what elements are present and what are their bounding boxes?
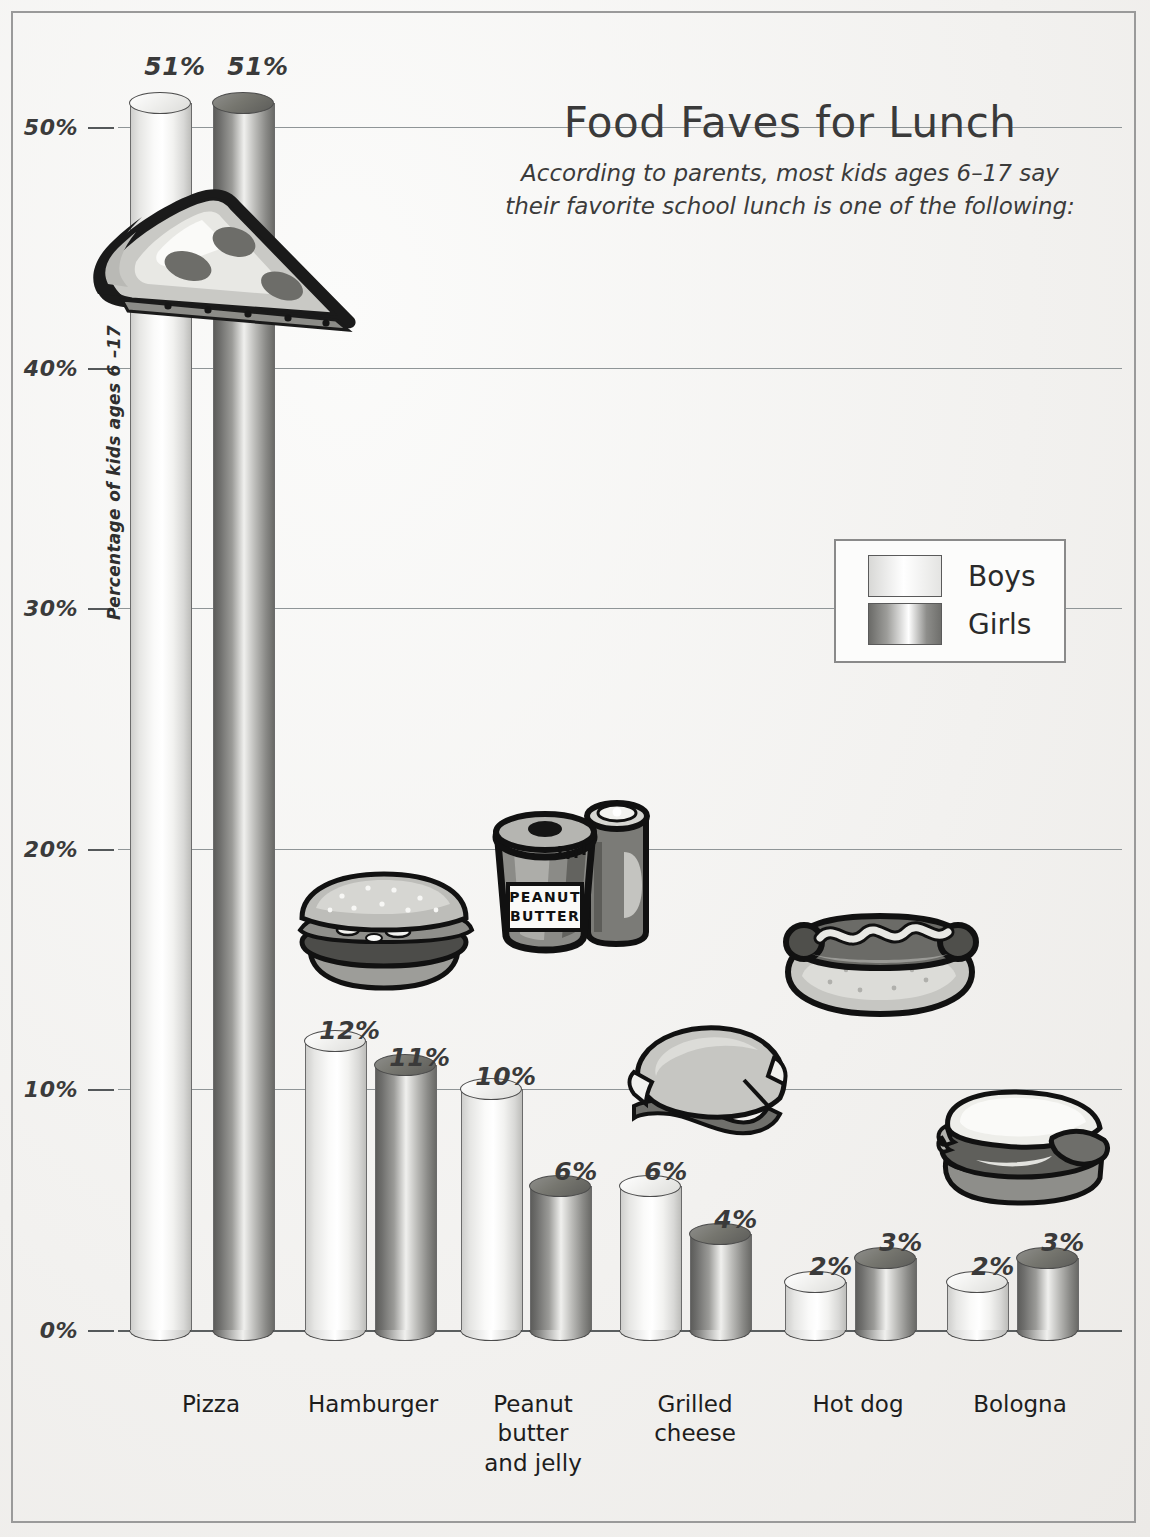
ytick-label-20: 20% [0, 837, 78, 862]
value-label-grilled-cheese-girls: 4% [688, 1205, 784, 1234]
category-label-line: cheese [600, 1419, 790, 1448]
legend-label-girls: Girls [968, 608, 1031, 641]
peanut-butter-jar-illustration: PEANUT BUTTER [484, 782, 664, 954]
chart-subtitle-line1: According to parents, most kids ages 6–1… [470, 157, 1110, 190]
category-label-grilled-cheese: Grilled cheese [600, 1390, 790, 1449]
legend-item-girls[interactable]: Girls [868, 603, 1031, 645]
bar-peanut-butter-and-jelly-girls[interactable] [530, 1186, 592, 1330]
value-label-pizza-girls: 51% [210, 52, 306, 81]
bar-body [620, 1186, 682, 1330]
chart-canvas: 0% 10% 20% 30% 40% 50% Percentage of kid… [0, 0, 1150, 1537]
bar-cap [212, 92, 274, 114]
hamburger-illustration [286, 868, 482, 994]
bologna-sandwich-illustration [928, 1088, 1120, 1212]
bar-hamburger-boys[interactable] [305, 1041, 367, 1330]
value-label-pbj-girls: 6% [528, 1157, 624, 1186]
pizza-slice-illustration [82, 168, 372, 343]
bar-body [305, 1041, 367, 1330]
chart-subtitle: According to parents, most kids ages 6–1… [470, 157, 1110, 222]
value-label-hamburger-girls: 11% [372, 1043, 468, 1072]
value-label-hamburger-boys: 12% [302, 1016, 398, 1045]
legend-swatch-girls [868, 603, 942, 645]
legend-item-boys[interactable]: Boys [868, 555, 1036, 597]
legend-swatch-boys [868, 555, 942, 597]
value-label-hot-dog-girls: 3% [853, 1228, 949, 1257]
category-label-bologna: Bologna [925, 1390, 1115, 1419]
legend: Boys Girls [834, 539, 1066, 663]
bar-hot-dog-boys[interactable] [785, 1282, 847, 1330]
value-label-grilled-cheese-boys: 6% [618, 1157, 714, 1186]
bar-body [375, 1065, 437, 1330]
bar-grilled-cheese-girls[interactable] [690, 1234, 752, 1330]
value-label-pbj-boys: 10% [458, 1062, 554, 1091]
bar-bologna-boys[interactable] [947, 1282, 1009, 1330]
ytick-label-50: 50% [0, 115, 78, 140]
ytick-label-30: 30% [0, 596, 78, 621]
ytick-label-40: 40% [0, 356, 78, 381]
grilled-cheese-illustration [612, 1022, 806, 1138]
chart-subtitle-line2: their favorite school lunch is one of th… [470, 190, 1110, 223]
hot-dog-illustration [778, 898, 982, 1024]
bar-body [530, 1186, 592, 1330]
category-label-line: and jelly [438, 1449, 628, 1478]
chart-title: Food Faves for Lunch [470, 98, 1110, 147]
bar-grilled-cheese-boys[interactable] [620, 1186, 682, 1330]
bar-cap [129, 92, 191, 114]
ytick-mark-10 [88, 1089, 114, 1091]
title-block: Food Faves for Lunch According to parent… [470, 98, 1110, 222]
ytick-mark-20 [88, 849, 114, 851]
bar-peanut-butter-and-jelly-boys[interactable] [461, 1089, 523, 1330]
ytick-label-0: 0% [0, 1318, 78, 1343]
peanut-butter-label-line2: BUTTER [510, 908, 580, 924]
bar-hamburger-girls[interactable] [375, 1065, 437, 1330]
category-label-line: Bologna [925, 1390, 1115, 1419]
category-label-line: Grilled [600, 1390, 790, 1419]
legend-label-boys: Boys [968, 560, 1036, 593]
ytick-label-10: 10% [0, 1077, 78, 1102]
value-label-pizza-boys: 51% [127, 52, 223, 81]
bar-body [690, 1234, 752, 1330]
bar-body [461, 1089, 523, 1330]
peanut-butter-label-line1: PEANUT [509, 889, 581, 905]
ytick-mark-0 [88, 1330, 114, 1332]
value-label-bologna-girls: 3% [1015, 1228, 1111, 1257]
ytick-mark-50 [88, 127, 114, 129]
